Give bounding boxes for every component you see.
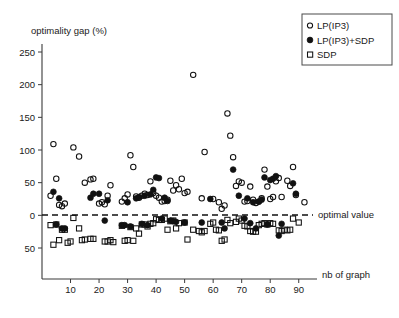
data-point [293,191,299,197]
data-point [262,175,268,181]
data-point [285,178,290,183]
data-point [279,221,285,227]
data-point [250,199,256,205]
data-point [71,145,76,150]
legend-label-lp-ip3-sdp: LP(IP3)+SDP [317,35,374,46]
data-point [173,226,178,231]
data-point [96,191,102,197]
y-tick-label: 150 [19,112,35,123]
data-point [53,222,59,228]
data-point [131,238,136,243]
x-tick-label: 80 [265,284,276,295]
data-point [165,198,171,204]
data-point [222,226,228,232]
data-point [54,176,59,181]
data-point [82,180,87,185]
optimal-value-label: optimal value [318,209,374,220]
data-point [136,231,141,236]
x-tick-label: 30 [122,284,133,295]
data-point [51,141,56,146]
data-point [134,226,139,231]
y-tick-label: 50 [24,243,35,254]
data-point [302,200,307,205]
data-point [202,149,207,154]
data-point [90,191,96,197]
data-point [262,167,267,172]
data-point [219,220,225,226]
data-point [156,175,162,181]
y-tick-label: 200 [19,79,35,90]
x-tick-label: 60 [208,284,219,295]
data-point [176,187,181,192]
chart-legend: LP(IP3) LP(IP3)+SDP SDP [302,14,392,65]
y-tick-label: 100 [19,145,35,156]
data-point [236,193,242,199]
y-tick-label: 250 [19,47,35,58]
legend-label-sdp: SDP [317,49,337,60]
data-point [290,180,296,186]
x-tick-label: 70 [236,284,247,295]
data-point [125,192,130,197]
data-point [259,197,265,203]
data-point [76,154,81,159]
data-point [182,220,188,226]
x-axis-title: nb of graph [322,269,370,280]
data-point [108,183,113,188]
data-point [225,111,230,116]
legend-marker-filled-circle-icon [307,37,313,43]
data-point [179,176,184,181]
data-point [228,133,233,138]
y-tick-label: 50 [24,177,35,188]
data-point [290,164,295,169]
data-point [150,187,156,193]
x-tick-label: 20 [94,284,105,295]
data-point [265,184,270,189]
data-point [142,193,148,199]
data-point [51,242,56,247]
x-tick-label: 40 [151,284,162,295]
series-points [48,72,307,247]
data-point [199,220,205,226]
data-point [216,200,221,205]
data-point [230,154,235,159]
data-point [168,178,173,183]
legend-label-lp-ip3: LP(IP3) [317,20,349,31]
data-point [136,194,142,200]
data-point [131,164,136,169]
series-lp-ip3 [48,72,307,211]
data-point [125,199,131,205]
data-point [190,72,195,77]
data-point [230,167,236,173]
data-point [279,194,284,199]
data-point [51,189,57,195]
data-point [102,218,108,224]
y-axis-ticks: 25020015010050050 [19,47,42,254]
data-point [290,216,295,221]
x-tick-label: 10 [65,284,76,295]
data-point [128,153,133,158]
data-point [199,196,204,201]
x-tick-label: 50 [179,284,190,295]
data-point [71,215,76,220]
data-point [57,238,62,243]
data-point [207,196,213,202]
y-tick-label: 0 [30,210,35,221]
y-axis-title: optimality gap (%) [31,25,107,36]
data-point [273,173,279,179]
data-point [105,197,111,203]
data-point [148,179,153,184]
scatter-chart: optimality gap (%) 25020015010050050 102… [0,0,399,318]
data-point [76,226,81,231]
x-axis-ticks: 102030405060708090 [65,279,304,295]
data-point [171,188,176,193]
x-tick-label: 90 [293,284,304,295]
data-point [296,220,301,225]
data-point [244,195,250,201]
data-point [248,184,253,189]
data-point [56,195,62,201]
chart-canvas: optimality gap (%) 25020015010050050 102… [0,0,399,318]
data-point [165,227,170,232]
data-point [185,237,190,242]
data-point [191,227,196,232]
data-point [48,223,53,228]
